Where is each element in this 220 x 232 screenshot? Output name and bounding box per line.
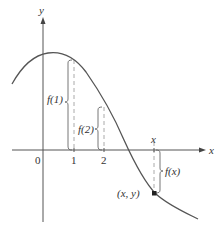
brace-fx bbox=[156, 150, 163, 193]
y-axis-arrow-icon bbox=[41, 17, 46, 24]
tick-label-2: 2 bbox=[101, 155, 107, 166]
annotation-f1: f(1) bbox=[47, 94, 63, 105]
origin-label: 0 bbox=[35, 155, 41, 166]
brace-f1 bbox=[65, 60, 72, 150]
function-graph bbox=[0, 0, 220, 232]
y-axis-label: y bbox=[39, 5, 44, 16]
x-axis-label: x bbox=[209, 145, 214, 156]
annotation-fx: f(x) bbox=[165, 166, 180, 177]
function-curve bbox=[12, 53, 198, 219]
point-marker-icon bbox=[152, 191, 157, 196]
brace-f2 bbox=[95, 107, 102, 150]
annotation-point: (x, y) bbox=[117, 188, 140, 199]
x-axis-arrow-icon bbox=[199, 148, 206, 153]
tick-label-x: x bbox=[151, 134, 156, 145]
annotation-f2: f(2) bbox=[78, 124, 94, 135]
tick-label-1: 1 bbox=[71, 155, 77, 166]
